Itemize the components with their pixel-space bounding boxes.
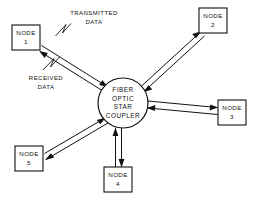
node-3-label: NODE [222, 104, 241, 111]
node-5[interactable]: NODE 5 [15, 146, 43, 171]
node-1-label: NODE [16, 29, 35, 36]
link-node-2 [141, 31, 205, 92]
node-2-label: NODE [203, 12, 222, 19]
hub-label-line-1: FIBER [112, 86, 133, 93]
node-2-number: 2 [211, 21, 215, 28]
fiber-optic-star-coupler[interactable]: FIBER OPTIC STAR COUPLER [98, 78, 148, 128]
transmitted-data-leader [56, 24, 72, 37]
hub-label-line-2: OPTIC [112, 95, 134, 102]
node-4-label: NODE [108, 171, 127, 178]
diagram-canvas: FIBER OPTIC STAR COUPLER NODE 1 NODE 2 N… [0, 0, 256, 202]
node-5-number: 5 [27, 159, 31, 166]
link-node-4 [113, 128, 125, 168]
transmitted-data-annotation: TRANSMITTED DATA [70, 10, 118, 25]
node-4[interactable]: NODE 4 [104, 167, 132, 192]
link-node-3 [147, 101, 218, 115]
node-1-number: 1 [24, 38, 28, 45]
transmitted-data-line-2: DATA [86, 19, 103, 25]
node-3[interactable]: NODE 3 [218, 100, 246, 125]
link-node-5 [45, 117, 109, 160]
node-4-number: 4 [116, 180, 120, 187]
node-5-label: NODE [19, 150, 38, 157]
node-1[interactable]: NODE 1 [12, 25, 40, 50]
hub-label-line-3: STAR [114, 103, 133, 110]
received-data-annotation: RECEIVED DATA [29, 75, 63, 90]
node-2[interactable]: NODE 2 [199, 8, 227, 33]
hub-label-line-4: COUPLER [106, 112, 140, 119]
received-data-line-2: DATA [38, 84, 55, 90]
network-diagram: FIBER OPTIC STAR COUPLER NODE 1 NODE 2 N… [0, 0, 256, 202]
transmitted-data-line-1: TRANSMITTED [70, 10, 118, 16]
node-3-number: 3 [230, 113, 234, 120]
received-data-line-1: RECEIVED [29, 75, 63, 81]
